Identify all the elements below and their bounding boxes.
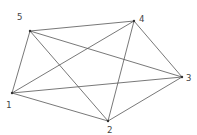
- vertex-label-1: 1: [6, 100, 11, 110]
- edge-3-4: [134, 21, 182, 77]
- vertex-label-5: 5: [17, 12, 22, 22]
- vertex-label-3: 3: [186, 73, 191, 83]
- edge-2-3: [108, 77, 182, 121]
- vertex-label-2: 2: [107, 125, 112, 135]
- vertex-2: [107, 120, 109, 122]
- edges-group: [12, 21, 182, 121]
- nodes-group: [11, 20, 183, 122]
- vertex-3: [181, 76, 183, 78]
- edge-1-2: [12, 93, 108, 121]
- vertex-5: [29, 30, 31, 32]
- vertex-label-4: 4: [139, 14, 144, 24]
- edge-4-5: [30, 21, 134, 31]
- k5-graph-diagram: 12345: [0, 0, 197, 135]
- vertex-4: [133, 20, 135, 22]
- vertex-1: [11, 92, 13, 94]
- edge-2-4: [108, 21, 134, 121]
- edge-1-3: [12, 77, 182, 93]
- edge-2-5: [30, 31, 108, 121]
